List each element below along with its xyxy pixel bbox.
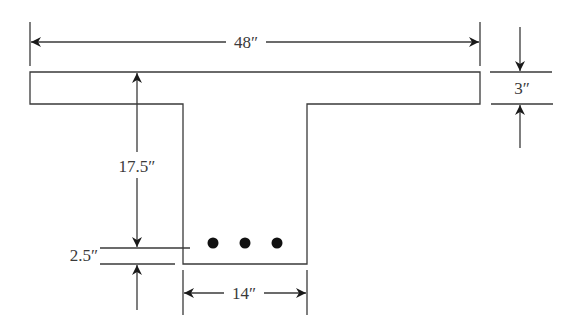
flange-width-dimension: 48″	[30, 22, 480, 66]
effective-depth-dimension: 17.5″	[119, 73, 156, 247]
t-beam-outline	[30, 72, 480, 264]
effective-depth-label: 17.5″	[119, 157, 156, 176]
rebar	[208, 238, 219, 249]
rebar	[272, 238, 283, 249]
flange-width-label: 48″	[234, 33, 258, 52]
reinforcement-bars	[208, 238, 283, 249]
flange-thickness-label: 3″	[514, 79, 530, 98]
web-width-dimension: 14″	[183, 270, 307, 315]
flange-thickness-dimension: 3″	[490, 27, 553, 148]
t-beam-diagram: 48″ 3″ 17.5″ 2.5″ 14″	[0, 0, 579, 321]
cover-label: 2.5″	[70, 246, 98, 265]
web-width-label: 14″	[232, 284, 256, 303]
rebar	[240, 238, 251, 249]
cover-dimension: 2.5″	[70, 246, 190, 310]
